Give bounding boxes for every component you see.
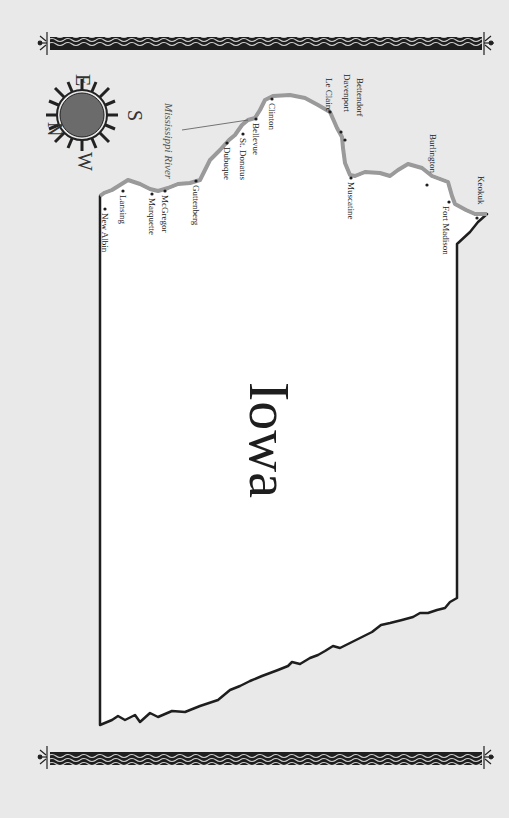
city-label-fort-madison: Fort Madison	[441, 206, 451, 255]
compass-east-label: E	[72, 74, 94, 86]
bottom-decorative-border	[38, 746, 494, 769]
top-decorative-border	[38, 32, 494, 55]
fleur-ornament-left-icon	[38, 32, 47, 55]
city-label-burlington: Burlington	[428, 134, 438, 174]
city-label-marquette: Marquette	[147, 198, 157, 235]
fleur-ornament-right-icon	[484, 32, 494, 55]
city-label-new-albin: New Albin	[100, 213, 110, 253]
city-label-muscatine: Muscatine	[346, 182, 356, 220]
city-label-guttenberg: Guttenberg	[191, 185, 201, 226]
city-label-davenport: Davenport	[342, 74, 352, 112]
city-label-bellevue: Bellevue	[251, 123, 261, 155]
river-label: Mississippi River	[163, 102, 175, 180]
compass-rose-icon	[46, 79, 118, 151]
fleur-ornament-left-icon	[38, 746, 47, 769]
city-label-st-donatus: St. Donatus	[238, 138, 248, 181]
city-label-dubuque: Dubuque	[222, 147, 232, 180]
compass-south-label: S	[124, 110, 146, 121]
compass-north-label: N	[44, 122, 66, 136]
compass-west-label: W	[74, 152, 96, 171]
city-label-le-claire: Le Claire	[324, 78, 334, 112]
state-label: Iowa	[237, 382, 302, 498]
fleur-ornament-right-icon	[484, 746, 494, 769]
city-label-lansing: Lansing	[118, 195, 128, 224]
city-label-keokuk: Keokuk	[476, 176, 486, 205]
city-label-mcgregor: McGregor	[160, 195, 170, 233]
city-label-clinton: Clinton	[267, 103, 277, 131]
iowa-map: N E S W Mississippi River Iowa New Albin…	[0, 0, 509, 818]
city-label-bettendorf: Bettendorf	[355, 78, 365, 117]
